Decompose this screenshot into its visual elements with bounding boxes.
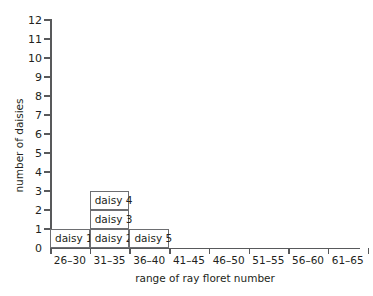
y-tick-5 xyxy=(44,152,50,154)
bar-cell: daisy 3 xyxy=(90,210,130,229)
y-tick-label-wrap: 10 xyxy=(0,53,42,64)
y-tick-label: 11 xyxy=(20,34,42,45)
y-tick-label: 1 xyxy=(20,224,42,235)
y-tick-label: 0 xyxy=(20,243,42,254)
x-tick-label: 61–65 xyxy=(318,254,373,266)
bar-cell: daisy 4 xyxy=(90,191,130,210)
y-tick-9 xyxy=(44,76,50,78)
y-tick-label-wrap: 12 xyxy=(0,15,42,26)
y-tick-4 xyxy=(44,171,50,173)
y-axis-line xyxy=(50,19,52,249)
bar-cell: daisy 5 xyxy=(129,229,169,248)
y-tick-10 xyxy=(44,57,50,59)
y-tick-7 xyxy=(44,114,50,116)
y-tick-label: 12 xyxy=(20,15,42,26)
y-tick-6 xyxy=(44,133,50,135)
y-tick-label: 10 xyxy=(20,53,42,64)
x-axis-title: range of ray floret number xyxy=(50,272,360,284)
bar-cell: daisy 1 xyxy=(50,229,90,248)
y-tick-label-wrap: 11 xyxy=(0,34,42,45)
y-tick-label-wrap: 1 xyxy=(0,224,42,235)
y-tick-3 xyxy=(44,190,50,192)
y-tick-12 xyxy=(44,19,50,21)
y-tick-8 xyxy=(44,95,50,97)
bar-cell: daisy 2 xyxy=(90,229,130,248)
y-tick-label-wrap: 0 xyxy=(0,243,42,254)
y-tick-2 xyxy=(44,209,50,211)
y-tick-11 xyxy=(44,38,50,40)
y-axis-title: number of daisies xyxy=(14,81,25,211)
